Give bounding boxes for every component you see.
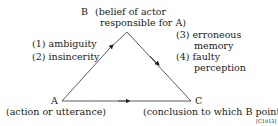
node-a-letter: A <box>51 95 58 106</box>
node-b-letter: B <box>81 6 88 17</box>
right-label-3-line2: memory <box>194 40 233 51</box>
right-label-3-line1: (3) erroneous <box>176 29 241 40</box>
node-b-desc-line1: (belief of actor <box>95 6 166 17</box>
right-label-4-line2: perception <box>194 62 246 73</box>
node-a-desc: (action or utterance) <box>6 106 106 117</box>
left-label-insincerity: (2) insincerity <box>32 51 99 62</box>
node-c-desc: (conclusion to which B points) <box>143 106 278 117</box>
figure-code: [C1913] <box>256 118 276 124</box>
edge-b-to-c <box>127 32 191 101</box>
left-label-ambiguity: (1) ambiguity <box>32 38 97 49</box>
node-b-desc-line2: responsible for A) <box>100 17 186 28</box>
right-label-4-line1: (4) faulty <box>176 51 220 62</box>
node-c-letter: C <box>195 95 202 106</box>
